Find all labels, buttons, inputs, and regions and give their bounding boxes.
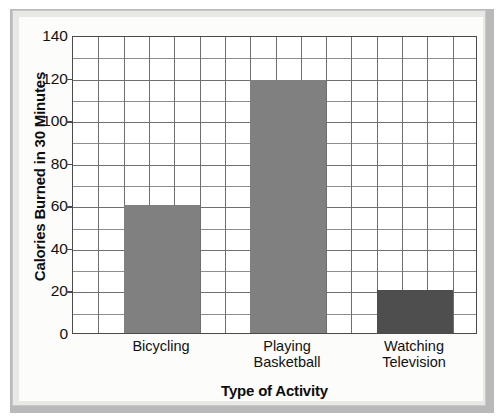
x-axis-category-line: Basketball (221, 354, 353, 370)
gridline-vertical (453, 37, 454, 333)
x-axis-category-playing-basketball: PlayingBasketball (221, 338, 353, 370)
x-axis-category-line: Watching (348, 338, 480, 354)
y-axis-tick-label: 0 (6, 326, 68, 342)
x-axis-category-line: Television (348, 354, 480, 370)
bar-watching-television[interactable] (377, 290, 453, 333)
y-axis-ticks: 020406080100120140 (0, 36, 68, 334)
x-axis-category-bicycling: Bicycling (95, 338, 227, 354)
y-axis-tick-label: 40 (6, 241, 68, 257)
bar-bicycling[interactable] (124, 205, 200, 333)
gridline-vertical (402, 37, 403, 333)
x-axis-category-line: Playing (221, 338, 353, 354)
y-axis-tick-label: 60 (6, 198, 68, 214)
x-axis-title: Type of Activity (72, 382, 477, 399)
gridline-horizontal-minor (73, 58, 476, 59)
bar-playing-basketball[interactable] (250, 80, 326, 333)
gridline-vertical (326, 37, 327, 333)
gridline-vertical (98, 37, 99, 333)
gridline-vertical (200, 37, 201, 333)
gridline-vertical (225, 37, 226, 333)
x-axis-category-line: Bicycling (95, 338, 227, 354)
bar-chart: Calories Burned in 30 Minutes 0204060801… (0, 0, 499, 420)
gridline-vertical (427, 37, 428, 333)
y-axis-tick-label: 80 (6, 156, 68, 172)
y-axis-tick-label: 100 (6, 113, 68, 129)
plot-area (72, 36, 477, 334)
x-axis-category-watching-television: WatchingTelevision (348, 338, 480, 370)
y-axis-tick-label: 140 (6, 28, 68, 44)
gridline-vertical (377, 37, 378, 333)
y-axis-tick-label: 120 (6, 71, 68, 87)
y-axis-tick-label: 20 (6, 283, 68, 299)
gridline-vertical (351, 37, 352, 333)
